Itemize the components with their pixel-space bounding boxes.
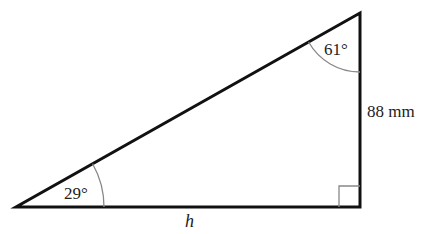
angle-arc-left (93, 164, 104, 207)
side-label-base: h (185, 211, 194, 231)
triangle-diagram: 29° 61° 88 mm h (0, 0, 427, 234)
triangle (16, 13, 360, 207)
side-label-vertical: 88 mm (367, 102, 415, 121)
angle-label-top: 61° (324, 40, 348, 59)
right-angle-marker (339, 186, 360, 207)
angle-label-left: 29° (64, 184, 88, 203)
